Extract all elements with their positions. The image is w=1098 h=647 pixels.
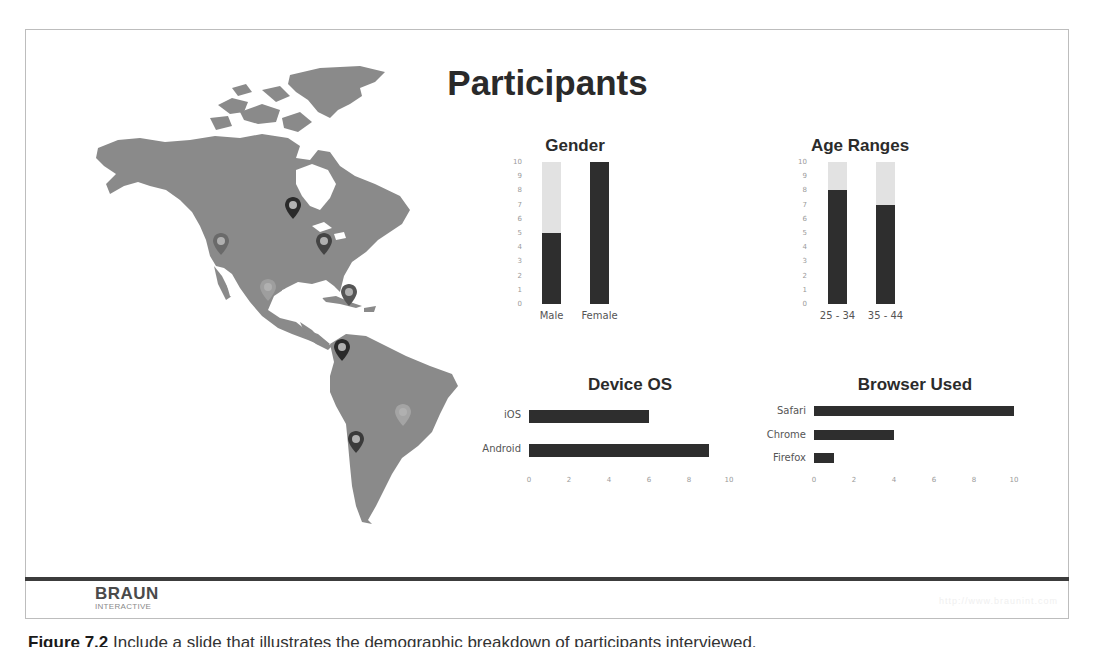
y-tick-label: 4 bbox=[508, 243, 522, 251]
age-chart-title: Age Ranges bbox=[800, 136, 920, 156]
y-tick-label: 7 bbox=[793, 201, 807, 209]
y-category-label: Safari bbox=[736, 405, 806, 416]
bar bbox=[529, 410, 649, 423]
y-tick-label: 10 bbox=[508, 158, 522, 166]
map-landmass bbox=[96, 66, 458, 524]
map-pin-icon bbox=[316, 233, 332, 255]
x-tick-label: 8 bbox=[679, 476, 699, 484]
x-tick-label: 2 bbox=[844, 476, 864, 484]
map-pin-icon bbox=[213, 233, 229, 255]
y-tick-label: 5 bbox=[508, 229, 522, 237]
gender-chart: 012345678910MaleFemale bbox=[508, 160, 638, 330]
y-tick-label: 4 bbox=[793, 243, 807, 251]
y-tick-label: 6 bbox=[508, 215, 522, 223]
bar-track bbox=[590, 162, 609, 304]
y-tick-label: 1 bbox=[793, 286, 807, 294]
bar bbox=[529, 444, 709, 457]
bar bbox=[814, 406, 1014, 416]
y-tick-label: 9 bbox=[508, 172, 522, 180]
y-tick-label: 0 bbox=[793, 300, 807, 308]
device-os-chart: iOSAndroid0246810 bbox=[450, 400, 750, 490]
browser-chart-title: Browser Used bbox=[840, 375, 990, 395]
logo-main: BRAUN bbox=[95, 585, 159, 602]
braun-logo: BRAUN INTERACTIVE bbox=[95, 585, 159, 611]
caption-text: Include a slide that illustrates the dem… bbox=[113, 633, 757, 647]
x-category-label: 35 - 44 bbox=[856, 310, 916, 321]
logo-sub: INTERACTIVE bbox=[95, 602, 159, 611]
y-tick-label: 9 bbox=[793, 172, 807, 180]
map-pin-icon bbox=[348, 431, 364, 453]
footer-url: http://www.braunint.com bbox=[939, 596, 1058, 606]
x-tick-label: 2 bbox=[559, 476, 579, 484]
footer-divider bbox=[25, 577, 1069, 581]
y-tick-label: 2 bbox=[508, 272, 522, 280]
y-tick-label: 3 bbox=[793, 257, 807, 265]
y-category-label: Android bbox=[451, 443, 521, 454]
bar bbox=[876, 205, 895, 304]
x-tick-label: 6 bbox=[639, 476, 659, 484]
bar bbox=[590, 162, 609, 304]
bar bbox=[828, 190, 847, 304]
y-tick-label: 1 bbox=[508, 286, 522, 294]
caption-label: Figure 7.2 bbox=[28, 633, 108, 647]
y-tick-label: 5 bbox=[793, 229, 807, 237]
y-tick-label: 8 bbox=[508, 186, 522, 194]
y-tick-label: 6 bbox=[793, 215, 807, 223]
x-tick-label: 0 bbox=[804, 476, 824, 484]
age-ranges-chart: 01234567891025 - 3435 - 44 bbox=[793, 160, 923, 330]
y-tick-label: 2 bbox=[793, 272, 807, 280]
map-pin-icon bbox=[260, 279, 276, 301]
map-pin-icon bbox=[395, 404, 411, 426]
x-tick-label: 0 bbox=[519, 476, 539, 484]
y-category-label: Firefox bbox=[736, 452, 806, 463]
bar bbox=[542, 233, 561, 304]
x-tick-label: 4 bbox=[884, 476, 904, 484]
y-tick-label: 3 bbox=[508, 257, 522, 265]
y-tick-label: 7 bbox=[508, 201, 522, 209]
browser-used-chart: SafariChromeFirefox0246810 bbox=[735, 400, 1045, 490]
y-tick-label: 0 bbox=[508, 300, 522, 308]
y-tick-label: 10 bbox=[793, 158, 807, 166]
x-tick-label: 8 bbox=[964, 476, 984, 484]
map-pin-icon bbox=[334, 339, 350, 361]
bar-track bbox=[542, 162, 561, 304]
bar bbox=[814, 430, 894, 440]
map-pin-icon bbox=[285, 197, 301, 219]
bar bbox=[814, 453, 834, 463]
bar-track bbox=[828, 162, 847, 304]
map-pin-icon bbox=[341, 284, 357, 306]
x-tick-label: 4 bbox=[599, 476, 619, 484]
device-os-chart-title: Device OS bbox=[560, 375, 700, 395]
y-category-label: Chrome bbox=[736, 429, 806, 440]
x-tick-label: 10 bbox=[1004, 476, 1024, 484]
y-category-label: iOS bbox=[451, 409, 521, 420]
gender-chart-title: Gender bbox=[530, 136, 620, 156]
figure-caption: Figure 7.2 Include a slide that illustra… bbox=[28, 633, 757, 647]
x-tick-label: 6 bbox=[924, 476, 944, 484]
x-category-label: Female bbox=[570, 310, 630, 321]
y-tick-label: 8 bbox=[793, 186, 807, 194]
bar-track bbox=[876, 162, 895, 304]
